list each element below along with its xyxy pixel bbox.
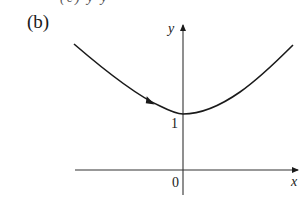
y-intercept-label: 1 <box>171 116 178 132</box>
cutoff-text: (c) y y <box>60 0 109 6</box>
x-axis-label: x <box>291 174 297 190</box>
panel-label: (b) <box>27 11 49 33</box>
origin-label: 0 <box>172 175 179 191</box>
figure: (c) y y (b) y 1 0 x <box>0 0 306 199</box>
y-axis-label: y <box>168 21 174 37</box>
